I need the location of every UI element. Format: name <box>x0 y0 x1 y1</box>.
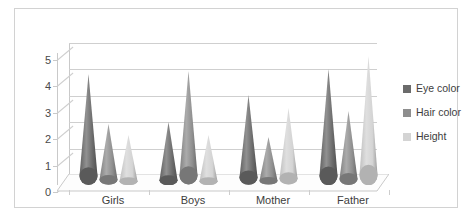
y-axis-tick-label: 4 <box>45 81 51 92</box>
x-axis-tick-mark <box>69 190 70 195</box>
legend-swatch-icon <box>403 133 411 141</box>
cone-father-eye-color <box>319 69 338 185</box>
x-axis-tick-mark <box>309 190 310 195</box>
cone-boys-hair-color <box>179 71 198 185</box>
legend-item-eye-color[interactable]: Eye color <box>403 83 472 94</box>
chart-frame: 012345 GirlsBoysMotherFather Eye colorHa… <box>14 8 458 208</box>
x-axis-tick-mark <box>229 190 230 195</box>
cone-girls-eye-color <box>79 74 98 185</box>
cone-girls-height <box>119 135 138 185</box>
cone-mother-eye-color <box>239 95 258 185</box>
legend-swatch-icon <box>403 109 411 117</box>
x-axis-label-girls: Girls <box>102 194 125 206</box>
x-axis-category-labels: GirlsBoysMotherFather <box>57 194 387 210</box>
legend-item-hair-color[interactable]: Hair color <box>403 107 472 118</box>
x-axis-tick-mark <box>389 190 390 195</box>
cone-group-mother <box>239 45 307 185</box>
plot-area: 012345 <box>57 43 377 191</box>
y-axis-tick-label: 5 <box>45 55 51 66</box>
y-axis-tick-label: 2 <box>45 134 51 145</box>
cone-girls-hair-color <box>99 124 118 185</box>
legend-label: Hair color <box>416 107 461 118</box>
x-axis-label-father: Father <box>337 194 369 206</box>
cone-boys-height <box>199 135 218 185</box>
x-axis-label-boys: Boys <box>181 194 205 206</box>
y-axis-tick-mark <box>53 192 58 193</box>
cone-father-hair-color <box>339 111 358 185</box>
cone-group-boys <box>159 45 227 185</box>
cone-group-girls <box>79 45 147 185</box>
legend-swatch-icon <box>403 85 411 93</box>
y-axis-tick-label: 1 <box>45 160 51 171</box>
cone-series-group <box>57 43 377 191</box>
x-axis-tick-mark <box>149 190 150 195</box>
legend-item-height[interactable]: Height <box>403 131 472 142</box>
cone-mother-height <box>279 108 298 185</box>
x-axis-label-mother: Mother <box>256 194 290 206</box>
y-axis-tick-label: 0 <box>45 187 51 198</box>
cone-chart-figure: 012345 GirlsBoysMotherFather Eye colorHa… <box>0 0 472 219</box>
cone-mother-hair-color <box>259 137 278 185</box>
cone-group-father <box>319 45 387 185</box>
y-axis-tick-label: 3 <box>45 107 51 118</box>
chart-legend: Eye colorHair colorHeight <box>403 83 472 155</box>
cone-father-height <box>359 56 378 185</box>
legend-label: Eye color <box>416 83 460 94</box>
legend-label: Height <box>416 131 446 142</box>
cone-boys-eye-color <box>159 122 178 185</box>
